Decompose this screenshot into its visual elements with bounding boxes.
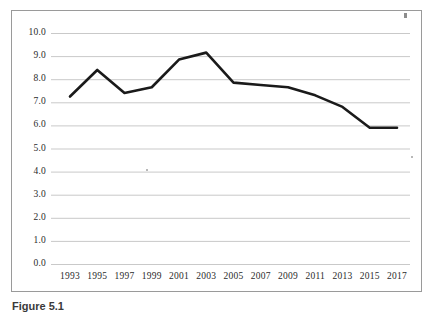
artifact-speck-top-right <box>404 13 407 18</box>
y-tick-label-7.0: 7.0 <box>34 96 46 106</box>
y-tick-label-9.0: 9.0 <box>34 50 46 60</box>
y-tick-label-4.0: 4.0 <box>34 166 46 176</box>
figure-caption: Figure 5.1 <box>12 300 432 312</box>
y-tick-label-3.0: 3.0 <box>34 189 46 199</box>
data-line-layer <box>12 11 423 293</box>
y-tick-label-1.0: 1.0 <box>34 235 46 245</box>
x-tick-label-2017: 2017 <box>377 271 417 281</box>
y-tick-label-8.0: 8.0 <box>34 73 46 83</box>
data-series-line <box>70 53 397 128</box>
plot-area: 0.01.02.03.04.05.06.07.08.09.010.0 19931… <box>12 11 423 293</box>
chart-frame: 0.01.02.03.04.05.06.07.08.09.010.0 19931… <box>11 10 422 292</box>
y-tick-label-6.0: 6.0 <box>34 119 46 129</box>
y-tick-label-10.0: 10.0 <box>29 27 46 37</box>
y-tick-label-2.0: 2.0 <box>34 212 46 222</box>
y-tick-label-0.0: 0.0 <box>34 258 46 268</box>
y-tick-label-5.0: 5.0 <box>34 143 46 153</box>
artifact-speck-mid <box>146 169 148 171</box>
artifact-speck-right <box>411 156 413 158</box>
figure-container: 0.01.02.03.04.05.06.07.08.09.010.0 19931… <box>0 0 434 315</box>
caption-prefix: Figure 5.1 <box>12 300 64 312</box>
